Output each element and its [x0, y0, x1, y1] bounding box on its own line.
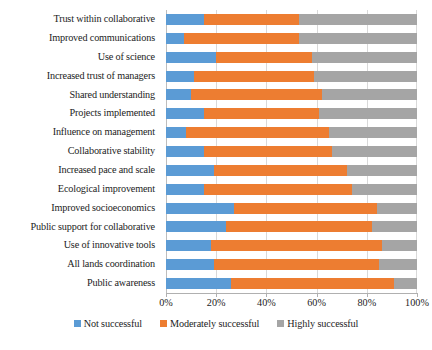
x-tick-label: 0%	[159, 297, 173, 308]
bar-segment	[382, 240, 417, 251]
stacked-bar-chart: Trust within collaborativeImproved commu…	[0, 0, 432, 350]
bar-segment	[166, 89, 191, 100]
y-axis-label: All lands coordination	[0, 255, 160, 274]
bar-segment	[314, 71, 417, 82]
plot-area	[166, 10, 417, 293]
bar-segment	[226, 221, 372, 232]
bar-segment	[166, 184, 204, 195]
y-axis-label: Improved communications	[0, 29, 160, 48]
bar-segment	[234, 203, 377, 214]
legend-label: Highly successful	[287, 318, 358, 329]
y-axis-label: Ecological improvement	[0, 180, 160, 199]
bar-row	[166, 180, 417, 199]
legend-item[interactable]: Highly successful	[277, 318, 358, 329]
bar-segment	[166, 33, 184, 44]
bar-segment	[231, 278, 394, 289]
bar-segment	[166, 108, 204, 119]
bar-segment	[214, 165, 347, 176]
x-tick-label: 60%	[307, 297, 326, 308]
y-axis-category-labels: Trust within collaborativeImproved commu…	[0, 10, 160, 293]
stacked-bar	[166, 14, 417, 25]
bar-row	[166, 48, 417, 67]
bar-segment	[166, 259, 214, 270]
stacked-bar	[166, 89, 417, 100]
bar-segment	[166, 52, 216, 63]
x-tick-label: 100%	[405, 297, 429, 308]
y-axis-label: Increased trust of managers	[0, 67, 160, 86]
y-axis-label: Projects implemented	[0, 104, 160, 123]
bar-segment	[372, 221, 417, 232]
bar-segment	[332, 146, 417, 157]
bar-segment	[166, 240, 211, 251]
bar-segment	[329, 127, 417, 138]
stacked-bar	[166, 71, 417, 82]
y-axis-label: Trust within collaborative	[0, 10, 160, 29]
bar-segment	[394, 278, 417, 289]
legend-item[interactable]: Not successful	[74, 318, 142, 329]
bar-segment	[319, 108, 417, 119]
legend-swatch-icon	[160, 320, 167, 327]
bar-segment	[166, 278, 231, 289]
bar-segment	[214, 259, 380, 270]
bar-row	[166, 217, 417, 236]
x-tick-label: 20%	[207, 297, 226, 308]
bar-row	[166, 161, 417, 180]
bar-segment	[191, 89, 322, 100]
stacked-bar	[166, 127, 417, 138]
bar-segment	[166, 127, 186, 138]
chart-legend: Not successfulModerately successfulHighl…	[0, 318, 432, 329]
bar-segment	[204, 14, 299, 25]
x-tick-label: 80%	[357, 297, 376, 308]
bar-row	[166, 142, 417, 161]
bar-row	[166, 104, 417, 123]
bar-segment	[186, 127, 329, 138]
y-axis-label: Influence on management	[0, 123, 160, 142]
stacked-bar	[166, 108, 417, 119]
legend-label: Not successful	[84, 318, 142, 329]
bar-segment	[166, 146, 204, 157]
bar-row	[166, 123, 417, 142]
y-axis-label: Collaborative stability	[0, 142, 160, 161]
y-axis-label: Public support for collaborative	[0, 217, 160, 236]
bar-segment	[204, 146, 332, 157]
bar-segment	[166, 14, 204, 25]
stacked-bar	[166, 240, 417, 251]
legend-item[interactable]: Moderately successful	[160, 318, 259, 329]
y-axis-label: Public awareness	[0, 274, 160, 293]
stacked-bar	[166, 221, 417, 232]
bar-row	[166, 29, 417, 48]
x-tick-label: 40%	[257, 297, 276, 308]
bar-row	[166, 236, 417, 255]
bar-segment	[166, 221, 226, 232]
y-axis-label: Use of innovative tools	[0, 236, 160, 255]
stacked-bar	[166, 52, 417, 63]
bar-segment	[379, 259, 417, 270]
bar-row	[166, 255, 417, 274]
bar-segment	[211, 240, 382, 251]
bar-segment	[352, 184, 417, 195]
bar-row	[166, 274, 417, 293]
stacked-bar	[166, 33, 417, 44]
bar-row	[166, 85, 417, 104]
bar-segment	[377, 203, 417, 214]
stacked-bar	[166, 184, 417, 195]
x-axis-tick-labels: 0%20%40%60%80%100%	[166, 297, 417, 313]
bar-segment	[216, 52, 311, 63]
stacked-bar	[166, 165, 417, 176]
bar-rows	[166, 10, 417, 293]
bar-segment	[322, 89, 417, 100]
bar-segment	[166, 203, 234, 214]
y-axis-label: Improved socioeconomics	[0, 199, 160, 218]
stacked-bar	[166, 203, 417, 214]
bar-segment	[299, 14, 417, 25]
y-axis-label: Shared understanding	[0, 85, 160, 104]
legend-label: Moderately successful	[170, 318, 259, 329]
bar-segment	[184, 33, 299, 44]
stacked-bar	[166, 278, 417, 289]
y-axis-label: Increased pace and scale	[0, 161, 160, 180]
bar-segment	[204, 184, 352, 195]
bar-row	[166, 67, 417, 86]
y-axis-label: Use of science	[0, 48, 160, 67]
bar-segment	[312, 52, 417, 63]
bar-segment	[194, 71, 314, 82]
